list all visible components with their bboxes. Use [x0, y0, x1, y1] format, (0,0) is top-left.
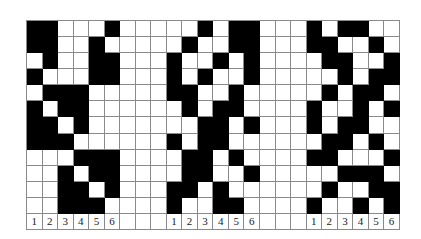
grid-cell	[105, 134, 121, 150]
grid-cell	[89, 69, 105, 85]
grid-cell	[384, 150, 400, 166]
grid-cell	[244, 37, 260, 53]
grid-cell	[369, 69, 385, 85]
grid-cell	[213, 101, 229, 117]
empty-cell	[260, 117, 276, 133]
grid-cell	[229, 101, 245, 117]
grid-cell	[182, 101, 198, 117]
grid-cell	[198, 198, 214, 214]
grid-cell	[167, 166, 183, 182]
empty-cell	[276, 101, 292, 117]
grid-cell	[198, 101, 214, 117]
grid-cell	[43, 101, 59, 117]
empty-cell	[276, 85, 292, 101]
grid-cell	[89, 166, 105, 182]
grid-cell	[338, 117, 354, 133]
grid-cell	[213, 182, 229, 198]
grid-cell	[229, 53, 245, 69]
column-label: 5	[369, 214, 385, 230]
empty-cell	[120, 117, 136, 133]
grid-cell	[338, 85, 354, 101]
grid-cell	[58, 53, 74, 69]
empty-cell	[120, 85, 136, 101]
grid-cell	[369, 182, 385, 198]
grid-cell	[369, 101, 385, 117]
grid-cell	[213, 37, 229, 53]
grid-cell	[229, 150, 245, 166]
grid-cell	[353, 37, 369, 53]
grid-cell	[213, 21, 229, 37]
empty-cell	[276, 166, 292, 182]
empty-cell	[291, 85, 307, 101]
empty-cell	[291, 198, 307, 214]
grid-cell	[353, 182, 369, 198]
grid-cell	[384, 53, 400, 69]
grid-cell	[105, 101, 121, 117]
empty-cell	[276, 21, 292, 37]
empty-cell	[136, 117, 152, 133]
grid-cell	[229, 117, 245, 133]
grid-cell	[369, 85, 385, 101]
grid-cell	[322, 53, 338, 69]
grid-cell	[338, 69, 354, 85]
column-label: 2	[43, 214, 59, 230]
grid-cell	[229, 69, 245, 85]
grid-cell	[27, 69, 43, 85]
empty-cell	[120, 214, 136, 230]
grid-cell	[27, 198, 43, 214]
grid-cell	[307, 150, 323, 166]
grid-cell	[105, 117, 121, 133]
grid-cell	[307, 37, 323, 53]
column-label: 4	[353, 214, 369, 230]
grid-cell	[244, 198, 260, 214]
grid-cell	[384, 85, 400, 101]
grid-cell	[27, 37, 43, 53]
grid-cell	[43, 21, 59, 37]
empty-cell	[151, 198, 167, 214]
grid-cell	[105, 182, 121, 198]
grid-cell	[43, 69, 59, 85]
grid-cell	[369, 166, 385, 182]
grid-cell	[167, 85, 183, 101]
grid-cell	[43, 182, 59, 198]
empty-cell	[276, 69, 292, 85]
grid-cell	[307, 85, 323, 101]
grid-cell	[384, 134, 400, 150]
grid-cell	[384, 166, 400, 182]
grid-cell	[244, 166, 260, 182]
grid-cell	[43, 166, 59, 182]
empty-cell	[291, 166, 307, 182]
grid-cell	[338, 182, 354, 198]
grid-cell	[43, 198, 59, 214]
grid-cell	[307, 69, 323, 85]
empty-cell	[260, 166, 276, 182]
empty-cell	[260, 53, 276, 69]
empty-cell	[291, 182, 307, 198]
grid-cell	[105, 150, 121, 166]
grid-cell	[58, 166, 74, 182]
grid-cell	[74, 53, 90, 69]
grid-cell	[167, 182, 183, 198]
empty-cell	[151, 182, 167, 198]
grid-cell	[229, 182, 245, 198]
grid-cell	[322, 134, 338, 150]
grid-cell	[43, 150, 59, 166]
grid-cell	[182, 37, 198, 53]
grid-cell	[89, 101, 105, 117]
empty-cell	[260, 182, 276, 198]
grid-cell	[198, 150, 214, 166]
grid-cell	[105, 166, 121, 182]
grid-cell	[74, 198, 90, 214]
grid-cell	[89, 150, 105, 166]
grid-cell	[244, 85, 260, 101]
grid-cell	[74, 101, 90, 117]
empty-cell	[276, 117, 292, 133]
empty-cell	[260, 21, 276, 37]
grid-cell	[307, 101, 323, 117]
empty-cell	[260, 37, 276, 53]
grid-cell	[213, 53, 229, 69]
grid-cell	[244, 182, 260, 198]
grid-cell	[27, 85, 43, 101]
empty-cell	[136, 53, 152, 69]
grid-cell	[369, 198, 385, 214]
